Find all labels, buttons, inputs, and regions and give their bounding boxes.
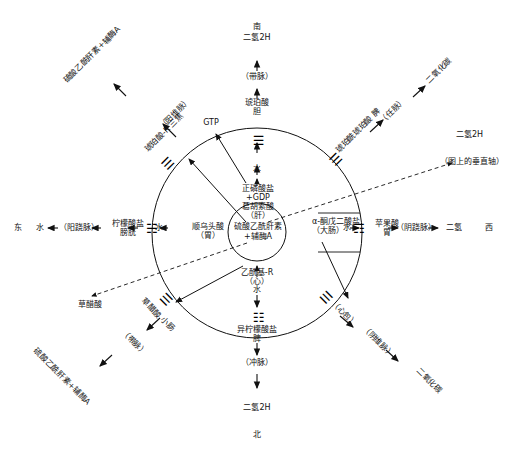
label-top-daimai: （带脉） <box>227 72 287 81</box>
arrow-nw-2 <box>114 84 126 96</box>
label-bottom-dihydrogen: 二氢2H <box>227 403 287 412</box>
label-center-node: 硫酸乙酰肝素 +辅酶A <box>228 222 288 242</box>
label-top-water: 水 <box>237 164 277 173</box>
label-top-dihydrogen: 二氢2H <box>227 33 287 42</box>
label-chongmai-meridian: （冲脉） <box>227 358 287 367</box>
label-oxaloacetate-dashed: 草醋酸 <box>60 300 120 309</box>
arrow-sw-2 <box>100 355 112 366</box>
label-west-axis: 西 <box>478 223 500 232</box>
arrow-to-gtp <box>216 134 246 183</box>
label-isocitrate: 异柠檬酸盐 脾 <box>222 325 292 343</box>
label-south-axis: 南 <box>237 22 277 31</box>
label-citrate: 柠檬酸盐 膀胱 <box>104 219 152 237</box>
label-orthophosphate-block: 正磷酸盐 +GDP 葛胡索酸 （肝） <box>222 184 294 220</box>
label-gtp: GTP <box>194 118 228 127</box>
label-left-water-end: 水 <box>30 223 50 232</box>
label-h2-vertical-axis: 二氢2H <box>456 130 512 139</box>
label-east-axis: 东 <box>8 223 28 232</box>
label-cis-aconitate: 顺乌头酸 （胃） <box>184 222 232 240</box>
label-h2-vertical-axis-note: （图上的垂直轴） <box>440 157 514 166</box>
trigram-bottom-icon: ☷ <box>244 311 272 324</box>
label-bottom-water: 水 <box>240 285 274 294</box>
dashed-axis-sw <box>92 243 247 296</box>
label-right-dihydrogen: 二氢 <box>438 223 470 232</box>
label-yinqiao-meridian: （阴跷脉） <box>394 223 438 232</box>
label-yangqiao-meridian: （阳跷脉） <box>56 223 102 232</box>
label-north-axis: 北 <box>237 430 277 439</box>
diagram-canvas: 南 二氢2H （带脉） 琥珀酸 胆 ☰ 水 GTP 正磷酸盐 +GDP 葛胡索酸… <box>0 0 515 452</box>
trigram-top-icon: ☰ <box>245 134 271 147</box>
label-acetyl-r: 乙酰基-R （心） <box>225 268 289 286</box>
label-top-succinate: 琥珀酸 胆 <box>227 98 287 116</box>
